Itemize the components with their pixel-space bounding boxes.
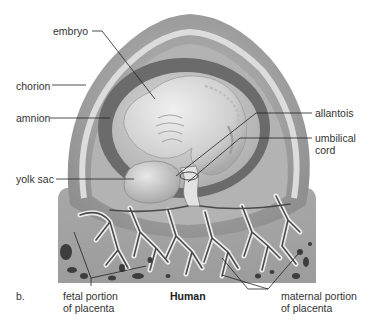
label-fetal-placenta-line2: of placenta <box>63 302 114 314</box>
label-maternal-placenta-line1: maternal portion <box>281 290 357 302</box>
label-umbilical-cord-line2: cord <box>315 144 335 156</box>
label-amnion: amnion <box>16 112 50 124</box>
label-embryo: embryo <box>53 25 88 37</box>
diagram-illustration <box>0 0 371 322</box>
yolk-sac <box>124 161 180 203</box>
human-embryo-membranes-diagram: embryo chorion amnion allantois umbilica… <box>0 0 371 322</box>
label-fetal-placenta-line1: fetal portion <box>63 290 118 302</box>
label-maternal-placenta-line2: of placenta <box>281 302 332 314</box>
label-allantois: allantois <box>315 107 354 119</box>
label-yolk-sac: yolk sac <box>16 173 54 185</box>
figure-title: Human <box>170 290 206 302</box>
label-chorion: chorion <box>16 80 50 92</box>
panel-label: b. <box>16 290 25 302</box>
label-umbilical-cord-line1: umbilical <box>315 132 356 144</box>
